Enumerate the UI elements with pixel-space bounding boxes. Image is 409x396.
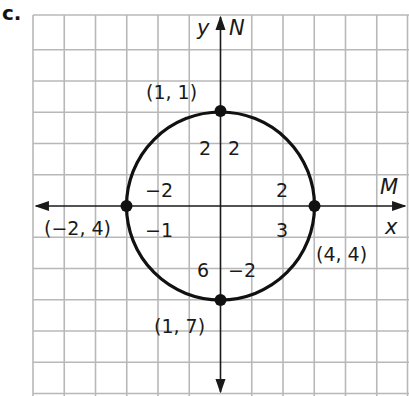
point-left (121, 200, 133, 212)
annotation-bottom-left: 6 (197, 259, 209, 281)
annotation-top-left: 2 (199, 137, 211, 159)
annotation-right-below: 3 (276, 219, 288, 241)
point-top (215, 105, 227, 117)
y-axis-label: y (196, 16, 210, 40)
point-label-right: (4, 4) (316, 243, 367, 265)
point-label-bottom: (1, 7) (154, 315, 205, 337)
x-axis-alt-label: M (380, 175, 398, 199)
point-label-top: (1, 1) (146, 81, 197, 103)
x-axis-label: x (384, 215, 398, 239)
annotation-bottom-right: −2 (228, 259, 256, 281)
annotation-right-above: 2 (276, 179, 288, 201)
point-label-left: (−2, 4) (44, 217, 111, 239)
annotation-left-above: −2 (145, 179, 173, 201)
annotation-left-below: −1 (145, 219, 173, 241)
point-bottom (215, 294, 227, 306)
point-right (309, 200, 321, 212)
y-axis-alt-label: N (229, 16, 245, 40)
coordinate-diagram: c. (0, 0, 409, 396)
annotation-top-right: 2 (228, 137, 240, 159)
